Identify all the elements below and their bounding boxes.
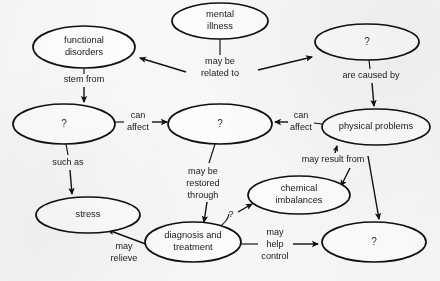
link-label-may-relieve-line1: may	[115, 241, 133, 251]
link-label-can-affect-right-line1: can	[294, 110, 309, 120]
link-label-may-help-control: may help control	[261, 227, 288, 261]
link-label-may-be-restored-through: may be restored through	[186, 166, 219, 200]
link-arrow-may-result-from-chemical	[341, 168, 350, 186]
link-label-may-help-control-line2: help	[266, 239, 283, 249]
link-arrow-to-functional-disorders	[140, 58, 186, 72]
link-label-restored-line3: through	[188, 190, 219, 200]
link-arrow-to-stress	[70, 170, 72, 194]
link-arrow-to-diagnosis	[204, 202, 207, 222]
link-arrow-to-unknown-top-right	[258, 57, 312, 70]
node-unknown-top-right-label: ?	[364, 36, 370, 47]
node-stress[interactable]: stress	[36, 197, 140, 233]
node-unknown-bottom-right-label: ?	[371, 236, 377, 247]
node-functional-disorders-label-line1: functional	[64, 35, 104, 45]
link-label-can-affect-left-line1: can	[131, 110, 146, 120]
node-mental-illness-label-line1: mental	[206, 9, 234, 19]
concept-map-diagram: functional disorders mental illness ? ? …	[0, 0, 440, 281]
link-label-can-affect-left: can affect	[127, 110, 150, 132]
node-diagnosis-and-treatment-label-line1: diagnosis and	[164, 230, 221, 240]
link-can-affect-right-stub	[314, 123, 322, 124]
node-unknown-left-middle-label: ?	[61, 118, 67, 129]
link-label-can-affect-right: can affect	[290, 110, 313, 132]
link-label-restored-line1: may be	[188, 166, 218, 176]
node-mental-illness-label-line2: illness	[207, 21, 233, 31]
link-arrow-may-result-from-bottom-right	[368, 156, 379, 219]
node-diagnosis-and-treatment[interactable]: diagnosis and treatment	[145, 222, 241, 262]
link-arrow-may-result-from-up	[335, 146, 337, 153]
link-label-can-affect-right-line2: affect	[290, 122, 313, 132]
link-label-may-relieve-line2: relieve	[111, 253, 138, 263]
node-chemical-imbalances[interactable]: chemical imbalances	[248, 176, 350, 214]
link-label-are-caused-by: are caused by	[342, 70, 400, 80]
link-label-may-help-control-line1: may	[266, 227, 284, 237]
node-chemical-imbalances-label-line1: chemical	[281, 183, 318, 193]
link-label-may-help-control-line3: control	[261, 251, 288, 261]
node-physical-problems[interactable]: physical problems	[322, 109, 430, 145]
link-label-may-result-from: may result from	[302, 154, 365, 164]
link-label-may-be-related-to: may be related to	[201, 56, 239, 78]
node-unknown-left-middle[interactable]: ?	[13, 104, 115, 144]
link-label-may-relieve: may relieve	[111, 241, 138, 263]
link-label-stem-from: stem from	[64, 74, 104, 84]
link-label-restored-line2: restored	[186, 178, 219, 188]
link-restored-through-stub	[209, 144, 215, 163]
link-label-unknown-relation: ?	[228, 209, 233, 219]
link-arrow-to-physical-problems	[372, 83, 374, 106]
node-chemical-imbalances-label-line2: imbalances	[275, 195, 322, 205]
node-diagnosis-and-treatment-label-line2: treatment	[173, 242, 213, 252]
node-physical-problems-label: physical problems	[339, 121, 414, 131]
link-arrow-to-chemical-imbalances	[238, 204, 252, 212]
link-label-such-as: such as	[52, 157, 84, 167]
link-label-can-affect-left-line2: affect	[127, 122, 150, 132]
node-unknown-bottom-right[interactable]: ?	[322, 222, 426, 262]
node-mental-illness[interactable]: mental illness	[172, 3, 268, 39]
link-unknown-top-right-stub	[369, 60, 370, 69]
node-unknown-center-label: ?	[217, 118, 223, 129]
link-label-may-be-related-to-line1: may be	[205, 56, 235, 66]
node-functional-disorders-label-line2: disorders	[65, 47, 104, 57]
link-such-as-stub	[66, 144, 68, 155]
link-label-may-be-related-to-line2: related to	[201, 68, 239, 78]
node-unknown-top-right[interactable]: ?	[315, 24, 419, 60]
node-stress-label: stress	[76, 209, 101, 219]
concept-map-canvas: functional disorders mental illness ? ? …	[0, 0, 440, 281]
node-unknown-center[interactable]: ?	[168, 104, 272, 144]
node-functional-disorders[interactable]: functional disorders	[33, 26, 135, 68]
